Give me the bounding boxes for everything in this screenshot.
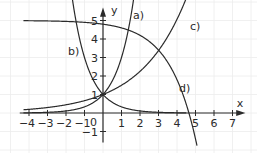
- x-tick-label: 5: [192, 117, 199, 130]
- chart-svg: −4−3−2−11234567−1123450xya)b)c)d): [0, 0, 257, 153]
- x-tick-label: 2: [137, 117, 144, 130]
- label-a: a): [133, 9, 144, 22]
- origin-label: 0: [90, 116, 97, 129]
- x-tick-label: 1: [118, 117, 125, 130]
- grid: [0, 0, 257, 153]
- label-c: c): [190, 20, 200, 33]
- labels: −4−3−2−11234567−1123450xya)b)c)d): [19, 4, 244, 138]
- y-tick-label: 3: [91, 52, 98, 65]
- x-tick-label: −3: [37, 117, 53, 130]
- x-tick-label: 6: [211, 117, 218, 130]
- x-tick-label: 3: [155, 117, 162, 130]
- label-b: b): [68, 45, 79, 58]
- curve-b: [71, 0, 186, 113]
- x-tick-label: 7: [229, 117, 236, 130]
- y-tick-label: 1: [91, 89, 98, 102]
- label-d: d): [179, 82, 190, 95]
- x-tick-label: −2: [56, 117, 72, 130]
- y-axis-label: y: [111, 4, 118, 17]
- y-tick-label: 5: [91, 15, 98, 28]
- exponential-functions-chart: −4−3−2−11234567−1123450xya)b)c)d): [0, 0, 257, 153]
- x-axis-label: x: [237, 97, 244, 110]
- x-tick-label: −4: [19, 117, 35, 130]
- x-tick-label: 4: [174, 117, 181, 130]
- y-tick-label: 2: [91, 70, 98, 83]
- y-tick-label: 4: [91, 33, 98, 46]
